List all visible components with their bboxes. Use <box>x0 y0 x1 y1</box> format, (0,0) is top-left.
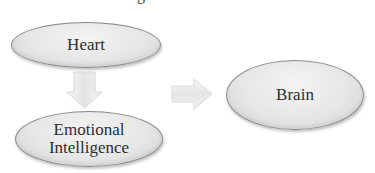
cropped-title-fragment: g <box>137 0 145 3</box>
right-arrow-icon <box>170 78 214 110</box>
heart-label: Heart <box>67 35 105 55</box>
down-arrow-icon <box>66 70 104 110</box>
brain-label: Brain <box>276 85 314 105</box>
emotional-intelligence-label-line2: Intelligence <box>49 139 129 157</box>
brain-node: Brain <box>226 60 364 130</box>
emotional-intelligence-node: Emotional Intelligence <box>15 111 163 167</box>
heart-node: Heart <box>11 22 161 68</box>
diagram-canvas: g Heart Emotional Intelligence <box>0 0 375 173</box>
emotional-intelligence-label-line1: Emotional <box>49 121 129 139</box>
